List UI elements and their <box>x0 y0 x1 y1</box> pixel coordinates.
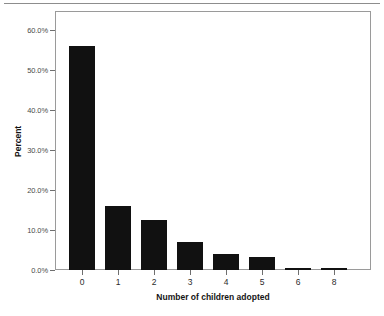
y-tick-label-0: 0.0% <box>20 266 48 275</box>
x-tick-8 <box>334 270 335 275</box>
y-tick-60 <box>50 30 55 31</box>
bar-4 <box>213 254 239 270</box>
x-tick-6 <box>298 270 299 275</box>
bar-1 <box>105 206 131 270</box>
y-tick-10 <box>50 230 55 231</box>
y-tick-0 <box>50 270 55 271</box>
y-tick-label-10: 10.0% <box>20 226 48 235</box>
y-tick-label-50: 50.0% <box>20 66 48 75</box>
x-tick-4 <box>226 270 227 275</box>
x-tick-1 <box>118 270 119 275</box>
x-tick-label-6: 6 <box>296 277 301 287</box>
x-tick-label-2: 2 <box>152 277 157 287</box>
bar-2 <box>141 220 167 270</box>
x-axis-title: Number of children adopted <box>55 292 371 302</box>
bars-layer <box>56 12 370 270</box>
y-tick-50 <box>50 70 55 71</box>
bar-3 <box>177 242 203 270</box>
x-tick-label-0: 0 <box>80 277 85 287</box>
bar-0 <box>69 46 95 270</box>
x-tick-label-4: 4 <box>224 277 229 287</box>
y-tick-40 <box>50 110 55 111</box>
y-tick-label-60: 60.0% <box>20 26 48 35</box>
y-tick-30 <box>50 150 55 151</box>
y-tick-label-30: 30.0% <box>20 146 48 155</box>
x-tick-0 <box>82 270 83 275</box>
x-tick-label-8: 8 <box>332 277 337 287</box>
bar-chart-figure: Percent Number of children adopted 01234… <box>0 0 384 316</box>
y-tick-20 <box>50 190 55 191</box>
bar-5 <box>249 257 275 270</box>
x-tick-2 <box>154 270 155 275</box>
x-tick-3 <box>190 270 191 275</box>
y-tick-label-40: 40.0% <box>20 106 48 115</box>
x-tick-5 <box>262 270 263 275</box>
page-top-rule <box>4 3 380 4</box>
x-tick-label-1: 1 <box>116 277 121 287</box>
x-tick-label-5: 5 <box>260 277 265 287</box>
y-tick-label-20: 20.0% <box>20 186 48 195</box>
x-tick-label-3: 3 <box>188 277 193 287</box>
